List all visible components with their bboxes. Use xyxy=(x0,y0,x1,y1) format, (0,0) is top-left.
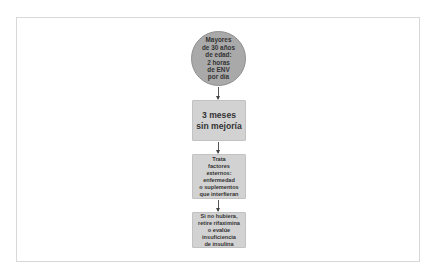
arrow-down-icon xyxy=(218,142,219,153)
start-node-circle: Mayores de 30 años de edad: 2 horas de E… xyxy=(191,31,246,86)
step-box-external-factors: Trata factores externos: enfermedad o su… xyxy=(192,154,246,199)
step-box-withdraw-rifaximin: Si no hubiera, retire rifaximina o evalú… xyxy=(192,212,246,248)
arrow-down-icon xyxy=(218,200,219,211)
arrow-down-icon xyxy=(218,87,219,99)
step-box-no-improvement: 3 meses sin mejoría xyxy=(192,100,246,141)
start-node-label: Mayores de 30 años de edad: 2 horas de E… xyxy=(202,36,235,80)
step-box-label: Trata factores externos: enfermedad o su… xyxy=(199,156,238,198)
step-box-label: 3 meses sin mejoría xyxy=(196,110,241,131)
step-box-label: Si no hubiera, retire rifaximina o evalú… xyxy=(198,213,240,248)
